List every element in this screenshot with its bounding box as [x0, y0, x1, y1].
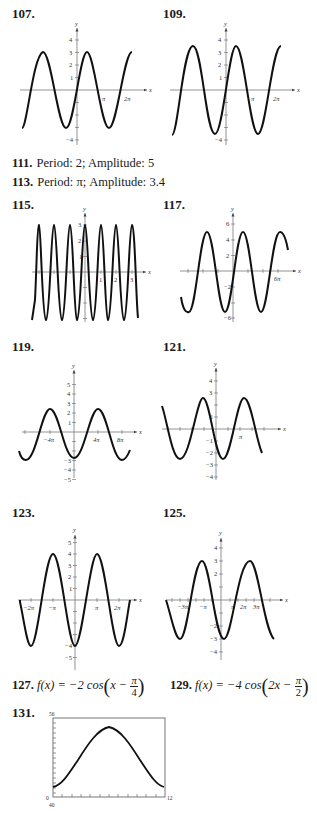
svg-text:−4: −4	[215, 136, 223, 143]
svg-text:1: 1	[219, 74, 222, 81]
graphs-canvas: 4321−4 y x π 2π 4321−4 yx π 2π 321 yx 12…	[0, 0, 317, 822]
graph-107: 4321−4 y x π 2π	[20, 20, 152, 145]
svg-text:y: y	[223, 20, 227, 27]
svg-text:3: 3	[130, 276, 133, 283]
svg-text:−1: −1	[206, 437, 213, 444]
svg-text:2: 2	[226, 252, 229, 259]
svg-text:−2: −2	[206, 449, 213, 456]
svg-text:4: 4	[68, 550, 72, 557]
svg-text:5: 5	[67, 381, 70, 388]
svg-text:x: x	[147, 268, 151, 275]
graph-117: 642 −2−6 yx 6π	[180, 205, 301, 322]
curve-131	[53, 727, 164, 787]
svg-text:−4: −4	[66, 136, 74, 143]
curve-119	[19, 409, 130, 460]
svg-text:4: 4	[214, 544, 218, 551]
svg-text:3: 3	[69, 49, 72, 56]
svg-text:2π: 2π	[114, 604, 121, 611]
svg-text:1: 1	[99, 276, 102, 283]
svg-text:4: 4	[67, 390, 71, 397]
graph-109: 4321−4 yx π 2π	[170, 20, 300, 145]
ymin-label: 40	[49, 802, 55, 808]
svg-text:4: 4	[218, 36, 222, 43]
curve-109	[172, 46, 281, 135]
svg-text:2π: 2π	[240, 603, 247, 610]
svg-text:2: 2	[67, 409, 70, 416]
svg-text:5: 5	[68, 539, 71, 546]
svg-text:4: 4	[226, 236, 230, 243]
svg-text:3: 3	[78, 221, 81, 228]
xmax-label: 12	[167, 795, 173, 801]
svg-text:−4π: −4π	[43, 436, 55, 443]
svg-text:2: 2	[69, 61, 72, 68]
graph-119: 54321 −3−4−5 yx −4π 4π 8π	[19, 362, 142, 483]
graph-123: 54321 −4−5 yx −2π −π π 2π	[18, 526, 142, 670]
svg-text:π: π	[251, 95, 255, 102]
svg-text:−4: −4	[64, 466, 72, 473]
svg-text:4π: 4π	[93, 436, 100, 443]
svg-text:π: π	[95, 604, 99, 611]
svg-text:−4: −4	[65, 642, 73, 649]
svg-text:x: x	[138, 596, 142, 603]
svg-text:−3π: −3π	[177, 603, 189, 610]
svg-text:−3: −3	[210, 635, 217, 642]
svg-text:4: 4	[209, 377, 213, 384]
svg-text:−5: −5	[65, 654, 72, 661]
svg-text:2π: 2π	[273, 95, 280, 102]
svg-text:1: 1	[70, 74, 73, 81]
svg-text:1: 1	[69, 585, 72, 592]
svg-text:π: π	[102, 95, 106, 102]
svg-text:3π: 3π	[252, 603, 260, 610]
svg-text:x: x	[297, 267, 301, 274]
svg-text:2: 2	[114, 276, 117, 283]
svg-text:y: y	[218, 529, 222, 536]
svg-text:−3: −3	[206, 461, 213, 468]
svg-text:2: 2	[68, 573, 71, 580]
svg-text:x: x	[296, 86, 300, 93]
graph-121: 431 −1−2−3−4 yx π	[162, 360, 286, 480]
svg-text:−π: −π	[48, 604, 56, 611]
svg-text:4: 4	[69, 36, 73, 43]
svg-text:y: y	[72, 526, 76, 533]
ymax-label: 56	[49, 711, 55, 717]
svg-text:x: x	[282, 425, 286, 432]
svg-text:x: x	[138, 428, 142, 435]
svg-text:−2π: −2π	[23, 604, 35, 611]
svg-text:y: y	[230, 205, 234, 212]
svg-text:3: 3	[67, 400, 70, 407]
svg-text:x: x	[284, 596, 288, 603]
svg-text:6π: 6π	[274, 275, 281, 282]
svg-text:−π: −π	[199, 603, 207, 610]
svg-text:8π: 8π	[117, 436, 124, 443]
svg-text:y: y	[213, 360, 217, 367]
svg-text:3: 3	[218, 49, 221, 56]
svg-text:−4: −4	[206, 473, 214, 480]
svg-text:y: y	[74, 20, 78, 27]
svg-text:π: π	[239, 433, 243, 440]
svg-text:3: 3	[68, 562, 71, 569]
svg-text:6: 6	[226, 220, 230, 227]
viewing-window	[53, 718, 165, 797]
curve-117	[181, 232, 288, 312]
svg-text:−2: −2	[210, 622, 217, 629]
svg-text:2π: 2π	[124, 95, 131, 102]
graph-131: 56 0 40 12	[46, 711, 173, 808]
svg-text:2: 2	[218, 61, 221, 68]
svg-text:3: 3	[209, 389, 212, 396]
xmin-label: 0	[46, 795, 49, 801]
svg-text:x: x	[148, 86, 152, 93]
svg-text:−3: −3	[64, 457, 71, 464]
svg-text:2: 2	[214, 570, 217, 577]
svg-text:1: 1	[68, 419, 71, 426]
svg-text:−2: −2	[224, 283, 231, 290]
svg-text:−4: −4	[210, 648, 218, 655]
svg-text:−6: −6	[224, 314, 232, 321]
svg-text:2: 2	[78, 237, 81, 244]
svg-text:y: y	[71, 362, 75, 369]
svg-text:−5: −5	[64, 476, 71, 483]
svg-text:3: 3	[214, 557, 217, 564]
graph-125: 432 −2−3−4 yx −3π −π π 2π 3π	[166, 529, 288, 660]
graph-115: 321 yx 123	[32, 205, 151, 322]
svg-text:y: y	[82, 205, 86, 212]
